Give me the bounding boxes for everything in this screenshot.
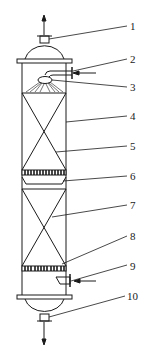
- label-10: 10: [127, 291, 138, 302]
- top-nozzle: [40, 36, 49, 43]
- top-flange: [17, 59, 72, 63]
- label-2: 2: [130, 54, 136, 65]
- label-1: 1: [130, 21, 136, 32]
- lower-support-grid: [22, 266, 66, 271]
- lower-packing-bed: [22, 189, 66, 266]
- label-4: 4: [130, 111, 136, 122]
- bottom-flange: [17, 295, 72, 299]
- gas-inlet-pipe: [56, 274, 70, 287]
- label-6: 6: [130, 171, 136, 182]
- label-3: 3: [130, 82, 136, 93]
- label-9: 9: [130, 261, 136, 272]
- bottom-nozzle: [40, 314, 49, 321]
- liquid-distributor: [38, 77, 52, 84]
- top-head: [25, 46, 64, 59]
- bottom-outlet-arrow-icon: [42, 322, 46, 345]
- packing-support-plate: [22, 170, 66, 184]
- label-5: 5: [130, 141, 136, 152]
- liquid-inlet-arrow-icon: [73, 71, 96, 75]
- bottom-head: [25, 299, 64, 311]
- upper-packing-bed: [22, 93, 66, 170]
- top-outlet-arrow-icon: [42, 15, 46, 35]
- label-7: 7: [130, 200, 136, 211]
- packed-column-diagram: [0, 0, 151, 359]
- label-8: 8: [130, 231, 136, 242]
